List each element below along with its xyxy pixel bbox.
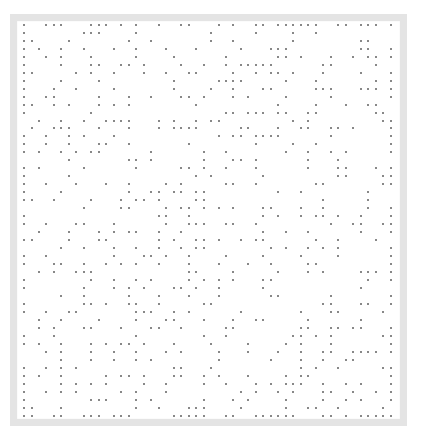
dot (262, 215, 264, 217)
dot (23, 175, 25, 177)
dot (105, 239, 107, 241)
dot (232, 183, 234, 185)
dot (232, 279, 234, 281)
dot (23, 104, 25, 106)
dot (255, 167, 257, 169)
dot (38, 319, 40, 321)
dot (390, 263, 392, 265)
dot (330, 56, 332, 58)
dot (292, 24, 294, 26)
dot (165, 255, 167, 257)
dot (120, 64, 122, 66)
dot (150, 40, 152, 42)
dot (188, 96, 190, 98)
dot (262, 239, 264, 241)
dot (135, 335, 137, 337)
dot (255, 391, 257, 393)
dot (60, 191, 62, 193)
dot (225, 56, 227, 58)
dot (255, 143, 257, 145)
dot (45, 351, 47, 353)
dot (375, 167, 377, 169)
dot (315, 80, 317, 82)
dot (300, 359, 302, 361)
dot (210, 40, 212, 42)
dot (382, 311, 384, 313)
dot (270, 359, 272, 361)
dot (90, 271, 92, 273)
dot (83, 207, 85, 209)
dot (345, 175, 347, 177)
dot (367, 351, 369, 353)
dot (203, 375, 205, 377)
dot (60, 48, 62, 50)
dot (300, 351, 302, 353)
dot (135, 391, 137, 393)
dot (150, 279, 152, 281)
dot (262, 207, 264, 209)
dot (195, 407, 197, 409)
dot (390, 96, 392, 98)
dot (247, 263, 249, 265)
dot (277, 215, 279, 217)
dot (322, 415, 324, 417)
dot (158, 327, 160, 329)
dot (225, 183, 227, 185)
dot (90, 343, 92, 345)
dot (277, 127, 279, 129)
dot (390, 391, 392, 393)
dot (352, 127, 354, 129)
dot (143, 199, 145, 201)
dot (240, 407, 242, 409)
dot (307, 24, 309, 26)
dot (195, 72, 197, 74)
dot (188, 255, 190, 257)
dot (390, 343, 392, 345)
dot (322, 271, 324, 273)
dot (218, 359, 220, 361)
dot (337, 311, 339, 313)
dot (255, 64, 257, 66)
dot (247, 351, 249, 353)
dot (262, 415, 264, 417)
dot (150, 327, 152, 329)
dot (315, 104, 317, 106)
dot (225, 151, 227, 153)
dot (53, 271, 55, 273)
dot (68, 104, 70, 106)
dot (38, 120, 40, 122)
dot (180, 24, 182, 26)
dot (232, 223, 234, 225)
dot (98, 96, 100, 98)
dot (218, 263, 220, 265)
dot (173, 287, 175, 289)
dot (390, 255, 392, 257)
dot (300, 127, 302, 129)
dot (68, 127, 70, 129)
dot (135, 56, 137, 58)
dot (262, 64, 264, 66)
dot (68, 175, 70, 177)
dot (218, 351, 220, 353)
dot (45, 391, 47, 393)
dot (225, 415, 227, 417)
dot (90, 32, 92, 34)
dot (360, 399, 362, 401)
dot (165, 383, 167, 385)
dot (315, 183, 317, 185)
dot (225, 383, 227, 385)
dot (367, 415, 369, 417)
dot (143, 255, 145, 257)
dot (277, 351, 279, 353)
dot (195, 48, 197, 50)
dot (375, 64, 377, 66)
dot (165, 72, 167, 74)
dot (45, 255, 47, 257)
dot (45, 24, 47, 26)
dot (345, 24, 347, 26)
dot (285, 231, 287, 233)
dot (150, 191, 152, 193)
dot (60, 295, 62, 297)
dot (360, 40, 362, 42)
dot (150, 255, 152, 257)
